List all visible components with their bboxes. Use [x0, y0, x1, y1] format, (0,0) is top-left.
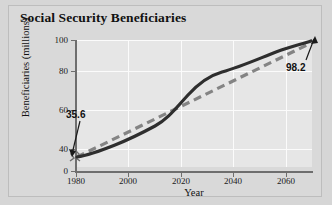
- y-tick-40: [71, 149, 75, 150]
- y-axis-line: [75, 40, 77, 168]
- annotation-label-end: 98.2: [286, 62, 305, 73]
- y-tick-0: [71, 171, 75, 172]
- y-axis-title: Beneficiaries (millions): [20, 3, 31, 133]
- y-tick-label-80: 80: [42, 66, 68, 76]
- gridline-x-2000: [128, 40, 129, 167]
- gridline-x-2020: [181, 40, 182, 167]
- x-tick-label-2020: 2020: [163, 176, 199, 186]
- gridline-x-2040: [233, 40, 234, 167]
- gridline-y-80: [76, 71, 312, 72]
- gridline-y-100: [76, 40, 312, 41]
- x-axis-line: [75, 171, 313, 173]
- x-tick-label-2060: 2060: [268, 176, 304, 186]
- plot-area: [76, 40, 312, 167]
- gridline-y-60: [76, 110, 312, 111]
- x-axis-title: Year: [76, 187, 312, 198]
- annotation-label-start: 35.6: [66, 109, 85, 120]
- y-tick-label-40: 40: [42, 144, 68, 154]
- y-tick-100: [71, 40, 75, 41]
- y-tick-label-100: 100: [42, 35, 68, 45]
- x-tick-label-2040: 2040: [215, 176, 251, 186]
- y-axis-break-icon: [69, 150, 83, 162]
- gridline-x-2060: [286, 40, 287, 167]
- x-tick-label-2000: 2000: [110, 176, 146, 186]
- y-tick-label-60: 60: [42, 105, 68, 115]
- y-tick-80: [71, 71, 75, 72]
- chart-figure: Social Security Beneficiaries 100 80 60 …: [0, 0, 332, 205]
- chart-title: Social Security Beneficiaries: [20, 10, 186, 26]
- x-tick-label-1980: 1980: [58, 176, 94, 186]
- gridline-y-40: [76, 149, 312, 150]
- y-tick-label-0: 0: [42, 166, 68, 176]
